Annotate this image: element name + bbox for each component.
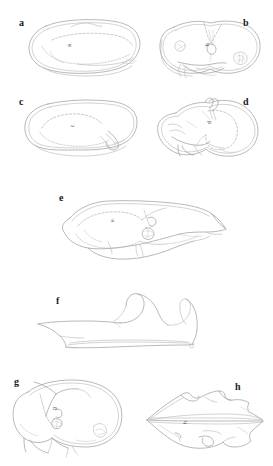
panel-label-b: b <box>243 18 249 28</box>
panel-label-g: g <box>14 377 19 387</box>
panel-a-scale-mark: a <box>67 44 72 47</box>
panel-h-scale-mark: h <box>183 421 188 424</box>
panel-b <box>156 18 266 82</box>
panel-h-drawing <box>145 383 267 457</box>
panel-g-scale-mark: g <box>52 407 57 410</box>
panel-c-drawing <box>22 98 142 160</box>
panel-c <box>22 98 142 160</box>
panel-g-drawing <box>10 378 126 458</box>
panel-label-a: a <box>19 18 24 28</box>
panel-d-scale-mark: d <box>207 121 212 124</box>
panel-b-drawing <box>156 18 266 82</box>
panel-e-drawing <box>48 196 228 268</box>
panel-e-scale-mark: e <box>110 219 115 222</box>
panel-g <box>10 378 126 458</box>
panel-a <box>26 18 144 78</box>
figure-plate: a a b b <box>0 0 273 466</box>
panel-label-f: f <box>56 296 59 306</box>
panel-d <box>152 97 268 165</box>
panel-c-scale-mark: c <box>70 125 75 128</box>
panel-a-drawing <box>26 18 144 78</box>
panel-e <box>48 196 228 268</box>
panel-h <box>145 383 267 457</box>
panel-d-drawing <box>152 97 268 165</box>
panel-label-h: h <box>235 382 241 392</box>
panel-label-d: d <box>243 97 249 107</box>
panel-f-drawing <box>34 290 214 352</box>
panel-label-e: e <box>59 193 63 203</box>
panel-label-c: c <box>19 97 23 107</box>
panel-b-scale-mark: b <box>205 43 210 46</box>
panel-f <box>34 290 214 352</box>
